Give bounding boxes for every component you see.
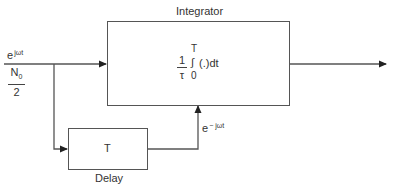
delay-to-integrator-arrow [147,106,198,149]
noise-num-base: N [11,66,19,78]
integral-lower-limit: 0 [191,70,197,81]
feedback-signal-base: e [202,122,208,134]
delay-value: T [104,142,111,154]
feedback-signal-exponent: − jωt [209,122,224,129]
noise-num-subscript: 0 [19,73,23,80]
fraction-bar [8,84,25,85]
integrand: (.)dt [199,57,219,69]
fraction-bar [177,67,187,68]
feedback-signal-label: e− jωt [202,122,224,134]
coef-numerator: 1 [177,54,187,66]
noise-numerator: N0 [8,66,25,80]
integrator-title: Integrator [176,5,223,17]
noise-density-fraction: N0 2 [8,66,25,98]
integral-sign: ∫ [191,56,194,68]
input-signal-label: ejωt [7,49,23,61]
branch-to-delay [54,64,67,149]
noise-denominator: 2 [8,86,25,98]
integral-upper-limit: T [191,43,197,54]
coef-denominator: τ [177,69,187,81]
delay-label: Delay [95,172,123,184]
input-signal-base: e [7,49,13,61]
integrator-coefficient: 1 τ [177,54,187,81]
input-signal-exponent: jωt [14,49,23,56]
